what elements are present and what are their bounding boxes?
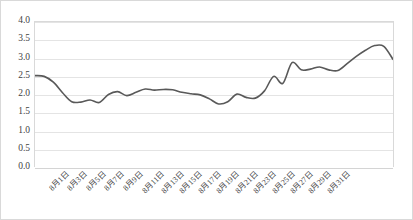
line-chart: 0.00.51.01.52.02.53.03.54.0 8月1日8月3日8月5日… bbox=[0, 0, 413, 220]
series-path bbox=[35, 45, 393, 104]
y-tick-label: 3.5 bbox=[1, 35, 30, 45]
y-tick-label: 2.5 bbox=[1, 71, 30, 81]
y-tick-label: 4.0 bbox=[1, 16, 30, 26]
series-line bbox=[35, 22, 393, 167]
y-tick-label: 1.5 bbox=[1, 108, 30, 118]
y-tick-label: 1.0 bbox=[1, 126, 30, 136]
x-axis: 8月1日8月3日8月5日8月7日8月9日8月11日8月13日8月15日8月17日… bbox=[34, 167, 394, 219]
y-tick-label: 2.0 bbox=[1, 89, 30, 99]
y-tick-label: 3.0 bbox=[1, 53, 30, 63]
x-tick-label: 8月3日 bbox=[66, 170, 89, 193]
y-axis: 0.00.51.01.52.02.53.03.54.0 bbox=[1, 21, 30, 167]
x-tick-label: 8月7日 bbox=[103, 170, 126, 193]
plot-area bbox=[34, 21, 394, 167]
x-tick-label: 8月5日 bbox=[85, 170, 108, 193]
x-tick-label: 8月1日 bbox=[48, 170, 71, 193]
y-tick-label: 0.0 bbox=[1, 162, 30, 172]
y-tick-label: 0.5 bbox=[1, 144, 30, 154]
